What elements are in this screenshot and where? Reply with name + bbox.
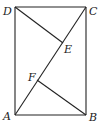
segment-de <box>15 7 63 43</box>
diagonal-ac <box>15 7 86 115</box>
label-d: D <box>2 5 12 18</box>
label-e: E <box>63 43 72 56</box>
label-b: B <box>88 111 97 122</box>
label-c: C <box>89 5 98 18</box>
segment-bf <box>37 80 86 115</box>
label-f: F <box>27 71 36 84</box>
label-a: A <box>2 110 11 122</box>
geometry-diagram: D C E F A B <box>0 0 106 122</box>
